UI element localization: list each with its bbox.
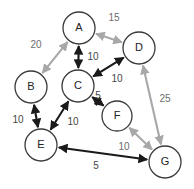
node-label-g: G	[161, 155, 170, 167]
node-a[interactable]: A	[63, 12, 95, 44]
edge-f-g	[129, 128, 152, 150]
edge-a-b	[42, 42, 67, 73]
edge-e-g	[59, 147, 147, 159]
edge-weight-a-d: 15	[108, 12, 120, 23]
graph-svg: ABCDEFG 201510105101025105	[0, 0, 194, 189]
node-g[interactable]: G	[149, 146, 181, 178]
node-f[interactable]: F	[102, 101, 132, 131]
node-b[interactable]: B	[15, 71, 47, 103]
edge-d-g	[143, 66, 161, 145]
edge-weight-f-g: 10	[118, 141, 130, 152]
edge-c-e	[51, 101, 69, 130]
edge-weight-d-g: 25	[159, 93, 171, 104]
edge-weight-b-e: 10	[12, 114, 24, 125]
edge-weight-a-c: 10	[87, 51, 99, 62]
node-d[interactable]: D	[123, 32, 155, 64]
node-label-f: F	[114, 109, 121, 121]
node-label-b: B	[27, 80, 34, 92]
node-e[interactable]: E	[25, 129, 57, 161]
node-c[interactable]: C	[62, 70, 94, 102]
edge-weight-c-d: 10	[111, 73, 123, 84]
edge-weight-a-b: 20	[30, 39, 42, 50]
edge-weight-c-f: 5	[95, 90, 101, 101]
edge-b-e	[34, 105, 38, 128]
node-label-e: E	[37, 138, 44, 150]
edge-a-d	[96, 34, 122, 43]
edge-weight-e-g: 5	[93, 160, 99, 171]
node-label-c: C	[74, 79, 82, 91]
graph-diagram-canvas: ABCDEFG 201510105101025105	[0, 0, 194, 189]
node-label-a: A	[75, 21, 83, 33]
edge-weight-c-e: 10	[67, 116, 79, 127]
node-label-d: D	[135, 41, 143, 53]
